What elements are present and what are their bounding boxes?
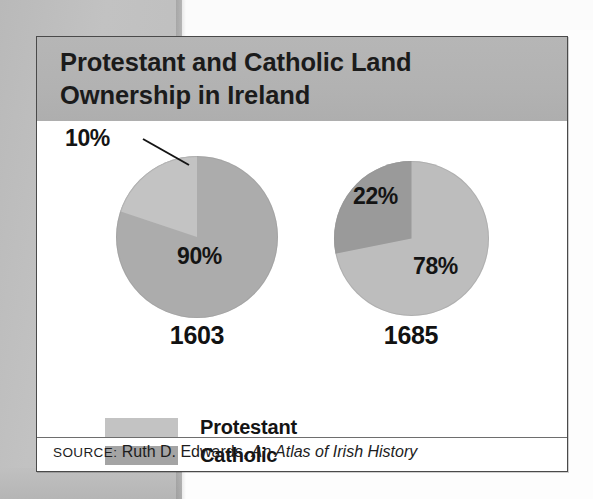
- source-note: SOURCE: Ruth D. Edwards, An Atlas of Iri…: [53, 443, 417, 461]
- legend-swatch-protestant: [105, 418, 178, 437]
- pie-1603-outline: [116, 156, 278, 318]
- pie-1603-label-protestant: 10%: [65, 125, 110, 152]
- pie-1685-label-light: 78%: [413, 253, 458, 280]
- figure-container: Protestant and Catholic Land Ownership i…: [36, 36, 568, 472]
- page-title: Protestant and Catholic Land Ownership i…: [60, 46, 530, 111]
- pie-chart-1685: 22% 78% 1685: [317, 121, 577, 391]
- pie-1685-year-label: 1685: [361, 321, 461, 350]
- title-band: Protestant and Catholic Land Ownership i…: [37, 37, 567, 121]
- source-author: Ruth D. Edwards,: [117, 443, 251, 460]
- source-prefix: SOURCE:: [53, 445, 117, 460]
- pie-chart-1603: 10% 90% 1603: [37, 121, 317, 391]
- pie-1603-year-label: 1603: [147, 321, 247, 350]
- pie-1603-leader-line: [141, 137, 201, 171]
- page-gray-margin-bottom: [0, 468, 182, 499]
- plot-area: 10% 90% 1603 22% 78% 1685: [37, 121, 567, 391]
- pie-1685-label-dark: 22%: [353, 183, 398, 210]
- legend-label-protestant: Protestant: [200, 416, 297, 439]
- source-work-title: An Atlas of Irish History: [252, 443, 418, 460]
- source-divider: [37, 437, 567, 438]
- page-white-top-strip: [182, 0, 593, 30]
- pie-1603-label-catholic: 90%: [177, 243, 222, 270]
